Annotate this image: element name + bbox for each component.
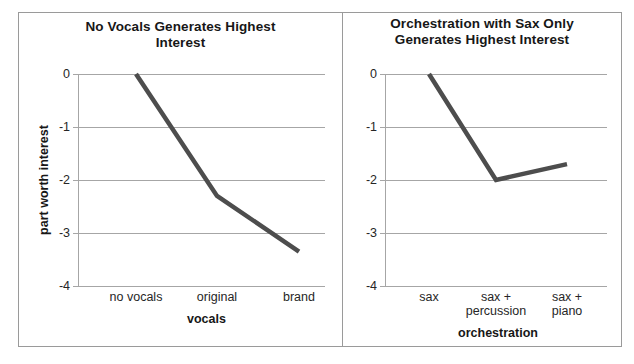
x-axis-title-vocals: vocals <box>19 312 342 326</box>
series-line-orchestration <box>385 74 607 286</box>
y-tick-label-3: -3 <box>59 226 70 240</box>
gridline-4 <box>385 286 607 287</box>
chart-title-line1: Orchestration with Sax Only <box>390 16 574 31</box>
x-tick-label-no-vocals: no vocals <box>110 290 163 304</box>
x-axis-title-orchestration: orchestration <box>343 326 621 340</box>
x-tick-label-sax: sax <box>419 290 438 304</box>
y-axis-title-vocals: part worth interest <box>37 125 51 235</box>
chart-title-line2: Interest <box>156 35 206 50</box>
y-tick-label-4: -4 <box>366 279 377 293</box>
chart-title-line1: No Vocals Generates Highest <box>85 19 275 34</box>
chart-title-line2: Generates Highest Interest <box>395 32 569 47</box>
x-tick-label-sax-percussion: sax + percussion <box>466 290 526 318</box>
y-tick-label-0: 0 <box>370 67 377 81</box>
figure-frame: No Vocals Generates Highest Interest par… <box>18 12 622 347</box>
plot-area-orchestration: 0 -1 -2 -3 -4 sax sax + percussion sax +… <box>385 74 607 286</box>
series-line-vocals <box>78 74 325 286</box>
chart-title-vocals: No Vocals Generates Highest Interest <box>19 19 342 51</box>
y-tick-4 <box>380 286 385 287</box>
plot-area-vocals: 0 -1 -2 -3 -4 no vocals original brand <box>78 74 325 286</box>
y-tick-4 <box>73 286 78 287</box>
y-tick-label-3: -3 <box>366 226 377 240</box>
y-tick-label-2: -2 <box>59 173 70 187</box>
chart-title-orchestration: Orchestration with Sax Only Generates Hi… <box>343 16 621 48</box>
y-tick-label-1: -1 <box>59 120 70 134</box>
x-tick-label-sax-piano: sax + piano <box>547 290 587 318</box>
y-tick-label-0: 0 <box>63 67 70 81</box>
chart-panel-vocals: No Vocals Generates Highest Interest par… <box>19 13 342 346</box>
x-tick-label-original: original <box>197 290 237 304</box>
y-tick-label-2: -2 <box>366 173 377 187</box>
y-tick-label-4: -4 <box>59 279 70 293</box>
x-tick-label-brand: brand <box>283 290 315 304</box>
y-tick-label-1: -1 <box>366 120 377 134</box>
gridline-4 <box>78 286 325 287</box>
chart-panel-orchestration: Orchestration with Sax Only Generates Hi… <box>342 13 621 346</box>
